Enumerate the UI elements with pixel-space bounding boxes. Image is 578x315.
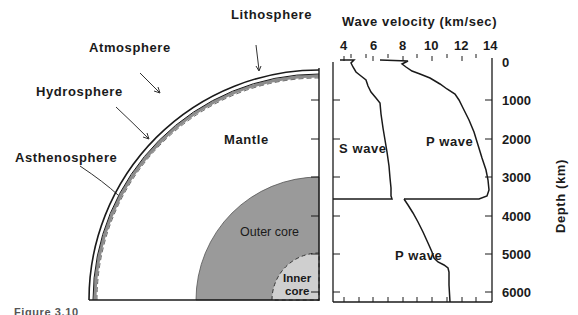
- depth-tick-2000: 2000: [502, 132, 531, 147]
- mantle-label: Mantle: [224, 132, 269, 147]
- velocity-tick-10: 10: [424, 38, 438, 53]
- p-wave-upper-label: P wave: [426, 134, 473, 149]
- s-wave-label: S wave: [339, 141, 387, 156]
- hydrosphere-label: Hydrosphere: [36, 84, 123, 99]
- inner-core-label-line1: Inner: [283, 272, 311, 284]
- depth-tick-1000: 1000: [502, 93, 531, 108]
- lithosphere-label: Lithosphere: [231, 7, 312, 22]
- asthenosphere-label: Asthenosphere: [15, 150, 117, 165]
- depth-tick-3000: 3000: [502, 170, 531, 185]
- depth-tick-0: 0: [502, 55, 509, 70]
- depth-axis-title: Depth (km): [553, 159, 568, 233]
- p-wave-lower-label: P wave: [395, 248, 442, 263]
- velocity-tick-8: 8: [399, 38, 406, 53]
- figure-caption: Figure 3.10: [14, 306, 79, 315]
- depth-tick-4000: 4000: [502, 209, 531, 224]
- depth-tick-6000: 6000: [502, 285, 531, 300]
- label-pointer-arrows: [80, 45, 261, 195]
- inner-core-label-line2: core: [285, 285, 309, 297]
- velocity-tick-12: 12: [454, 38, 468, 53]
- p-wave-mantle-curve: [380, 60, 489, 199]
- outer-core-label: Outer core: [240, 225, 299, 239]
- velocity-tick-4: 4: [340, 38, 347, 53]
- atmosphere-label: Atmosphere: [89, 40, 171, 55]
- velocity-axis-title: Wave velocity (km/sec): [342, 14, 497, 29]
- s-wave-curve: [333, 60, 392, 199]
- velocity-tick-6: 6: [370, 38, 377, 53]
- velocity-tick-14: 14: [483, 38, 497, 53]
- depth-tick-5000: 5000: [502, 247, 531, 262]
- velocity-axis-ticks: [344, 54, 476, 61]
